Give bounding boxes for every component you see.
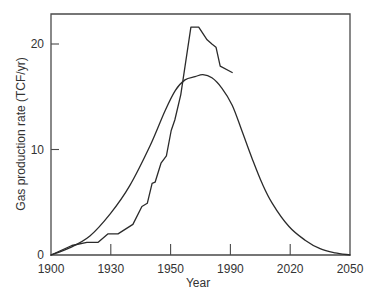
y-axis-title: Gas production rate (TCF/yr): [14, 57, 28, 210]
chart-canvas: 01020 190019301950199020202050 Year Gas …: [0, 0, 376, 306]
y-tick-label: 0: [37, 248, 44, 262]
plot-frame: [51, 14, 350, 255]
gas-production-chart: 01020 190019301950199020202050 Year Gas …: [0, 0, 376, 306]
y-axis-ticks: 01020: [31, 37, 59, 262]
x-tick-label: 1900: [38, 262, 65, 276]
x-tick-label: 2020: [277, 262, 304, 276]
y-tick-label: 10: [31, 143, 45, 157]
x-tick-label: 1930: [97, 262, 124, 276]
x-tick-label: 2050: [337, 262, 364, 276]
hubbert-curve-line: [51, 75, 350, 255]
plot-border: [51, 14, 350, 255]
cropped-caption-strip: [0, 296, 376, 306]
historical-production-line: [51, 27, 232, 255]
data-series: [51, 27, 350, 255]
x-tick-label: 1990: [217, 262, 244, 276]
x-tick-label: 1950: [157, 262, 184, 276]
y-tick-label: 20: [31, 37, 45, 51]
x-axis-title: Year: [186, 276, 210, 290]
x-axis-ticks: 190019301950199020202050: [38, 244, 364, 276]
